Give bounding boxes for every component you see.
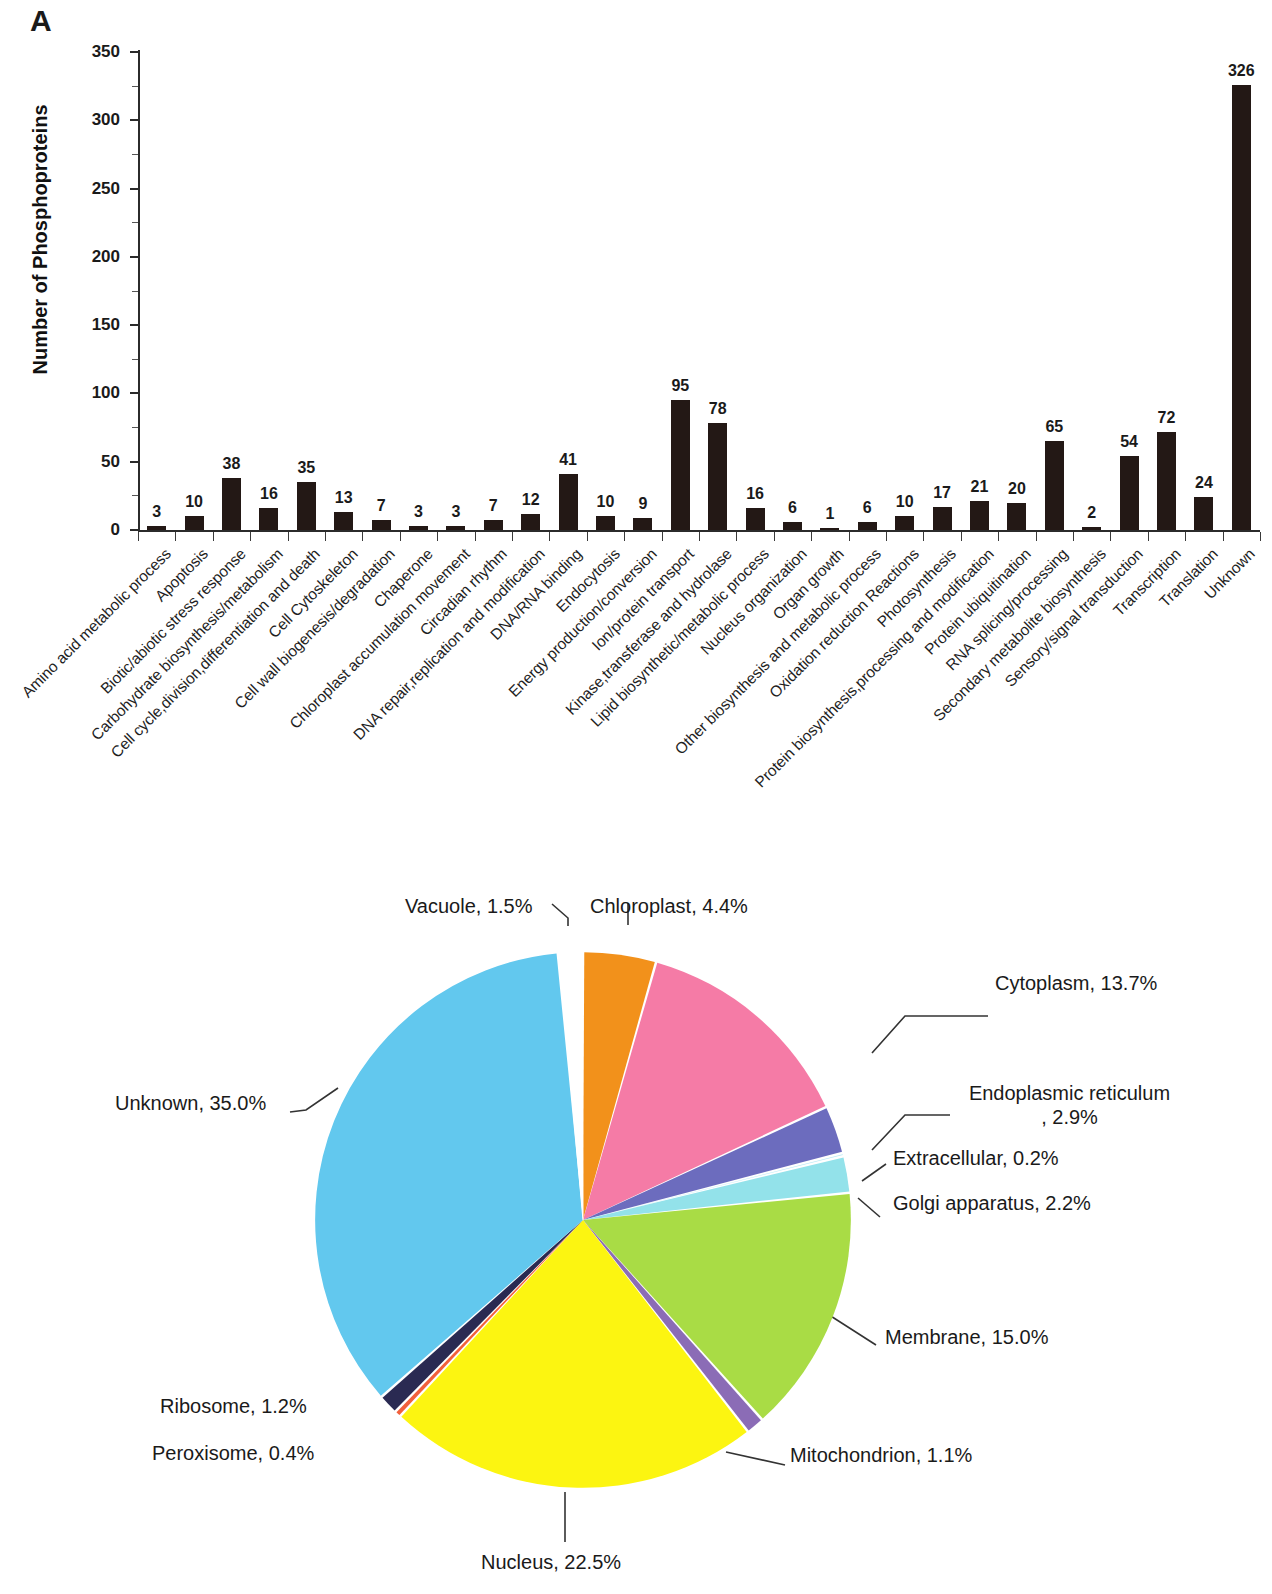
bar-value-label: 95 bbox=[671, 377, 689, 395]
y-tick-mark bbox=[130, 324, 138, 326]
bar bbox=[933, 507, 952, 530]
x-tick-mark bbox=[250, 532, 251, 541]
x-tick-mark bbox=[213, 532, 214, 541]
x-tick-mark bbox=[923, 532, 924, 541]
y-tick-label: 200 bbox=[60, 247, 120, 267]
bar bbox=[858, 522, 877, 530]
bar bbox=[820, 528, 839, 530]
bar-value-label: 3 bbox=[414, 503, 423, 521]
pie-label-er-line1: Endoplasmic reticulum bbox=[957, 1082, 1182, 1106]
bar-value-label: 72 bbox=[1158, 409, 1176, 427]
y-tick-mark bbox=[130, 392, 138, 394]
x-tick-mark bbox=[774, 532, 775, 541]
pie-chart: Chloroplast, 4.4%Cytoplasm, 13.7%Endopla… bbox=[283, 920, 883, 1520]
pie-label-unknown: Unknown, 35.0% bbox=[115, 1092, 266, 1116]
bar bbox=[746, 508, 765, 530]
leader-line-endoplasmic-reticulum bbox=[872, 1115, 950, 1150]
pie-label-golgi-apparatus: Golgi apparatus, 2.2% bbox=[893, 1192, 1091, 1216]
y-tick-label: 300 bbox=[60, 110, 120, 130]
bar-value-label: 35 bbox=[297, 459, 315, 477]
bar-value-label: 41 bbox=[559, 451, 577, 469]
x-tick-mark bbox=[998, 532, 999, 541]
bar bbox=[222, 478, 241, 530]
bar-value-label: 65 bbox=[1045, 418, 1063, 436]
pie-svg: Chloroplast, 4.4%Cytoplasm, 13.7%Endopla… bbox=[283, 920, 883, 1520]
bar bbox=[895, 516, 914, 530]
bar-value-label: 1 bbox=[825, 505, 834, 523]
y-tick-mark bbox=[130, 188, 138, 190]
y-tick-mark bbox=[130, 529, 138, 531]
x-tick-mark bbox=[362, 532, 363, 541]
bar-value-label: 20 bbox=[1008, 480, 1026, 498]
bar-value-label: 10 bbox=[896, 493, 914, 511]
x-tick-mark bbox=[325, 532, 326, 541]
x-tick-mark bbox=[1073, 532, 1074, 541]
bar bbox=[521, 514, 540, 530]
x-tick-mark bbox=[1110, 532, 1111, 541]
bar bbox=[1232, 85, 1251, 530]
x-tick-mark bbox=[288, 532, 289, 541]
bar-value-label: 2 bbox=[1087, 504, 1096, 522]
y-axis-title: Number of Phosphoproteins bbox=[29, 30, 52, 450]
bar bbox=[1045, 441, 1064, 530]
panel-a-bar-chart: A Number of Phosphoproteins 050100150200… bbox=[0, 0, 1272, 820]
bar-value-label: 10 bbox=[185, 493, 203, 511]
y-tick-label: 50 bbox=[60, 452, 120, 472]
pie-label-er-line2: , 2.9% bbox=[957, 1106, 1182, 1130]
bar-value-label: 78 bbox=[709, 400, 727, 418]
bar-value-label: 6 bbox=[863, 499, 872, 517]
x-tick-mark bbox=[138, 532, 139, 541]
bar-value-label: 3 bbox=[451, 503, 460, 521]
x-tick-mark bbox=[549, 532, 550, 541]
bar-value-label: 13 bbox=[335, 489, 353, 507]
bar bbox=[708, 423, 727, 530]
bar bbox=[446, 526, 465, 530]
bar bbox=[633, 518, 652, 530]
pie-label-nucleus: Nucleus, 22.5% bbox=[481, 1551, 621, 1575]
bar-value-label: 21 bbox=[971, 478, 989, 496]
bar-value-label: 16 bbox=[746, 485, 764, 503]
bar bbox=[559, 474, 578, 530]
y-tick-mark bbox=[130, 256, 138, 258]
bar bbox=[1082, 527, 1101, 530]
y-tick-label: 100 bbox=[60, 383, 120, 403]
x-tick-mark bbox=[1223, 532, 1224, 541]
x-tick-mark bbox=[849, 532, 850, 541]
leader-line-cytoplasm bbox=[872, 1016, 988, 1053]
x-tick-mark bbox=[662, 532, 663, 541]
pie-label-cytoplasm: Cytoplasm, 13.7% bbox=[995, 972, 1157, 996]
bar-value-label: 12 bbox=[522, 491, 540, 509]
bar-value-label: 54 bbox=[1120, 433, 1138, 451]
x-tick-mark bbox=[587, 532, 588, 541]
x-tick-mark bbox=[736, 532, 737, 541]
y-tick-label: 150 bbox=[60, 315, 120, 335]
bar-value-label: 3 bbox=[152, 503, 161, 521]
bar-value-label: 38 bbox=[223, 455, 241, 473]
x-tick-mark bbox=[512, 532, 513, 541]
bar bbox=[1120, 456, 1139, 530]
bar bbox=[372, 520, 391, 530]
bar bbox=[970, 501, 989, 530]
bar-value-label: 17 bbox=[933, 484, 951, 502]
bar bbox=[409, 526, 428, 530]
bar bbox=[484, 520, 503, 530]
bar bbox=[334, 512, 353, 530]
pie-label-chloroplast: Chloroplast, 4.4% bbox=[590, 895, 748, 919]
x-tick-mark bbox=[175, 532, 176, 541]
bar bbox=[596, 516, 615, 530]
x-tick-mark bbox=[1185, 532, 1186, 541]
bar-value-label: 326 bbox=[1228, 62, 1255, 80]
x-tick-mark bbox=[699, 532, 700, 541]
bar bbox=[1007, 503, 1026, 530]
pie-label-ribosome: Ribosome, 1.2% bbox=[160, 1395, 307, 1419]
bar bbox=[259, 508, 278, 530]
y-tick-mark bbox=[130, 51, 138, 53]
pie-label-membrane: Membrane, 15.0% bbox=[885, 1326, 1048, 1350]
x-tick-mark bbox=[475, 532, 476, 541]
y-tick-label: 250 bbox=[60, 179, 120, 199]
x-tick-mark bbox=[400, 532, 401, 541]
y-tick-mark bbox=[130, 119, 138, 121]
bar-value-label: 24 bbox=[1195, 474, 1213, 492]
pie-label-endoplasmic-reticulum: Endoplasmic reticulum, 2.9% bbox=[957, 1082, 1182, 1129]
bar-value-label: 7 bbox=[489, 497, 498, 515]
